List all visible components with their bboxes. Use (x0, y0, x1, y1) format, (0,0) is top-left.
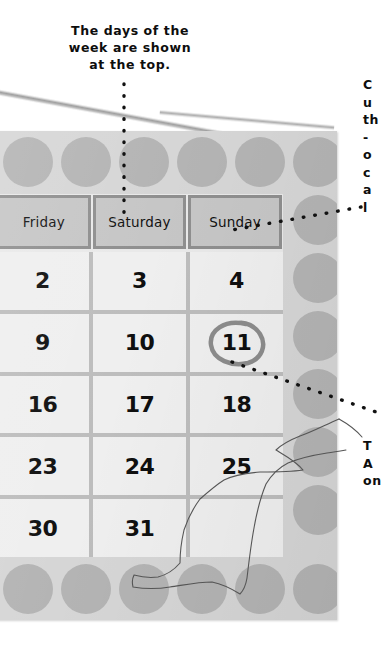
date-cell[interactable]: 30 (0, 499, 89, 557)
date-cell[interactable]: 3 (93, 252, 186, 310)
calendar-grid-area: Friday Saturday Sunday 2 3 4 9 10 11 16 … (0, 194, 283, 557)
day-header-friday[interactable]: Friday (0, 195, 91, 249)
date-cell[interactable]: 2 (0, 252, 89, 310)
date-cell[interactable]: 23 (0, 437, 89, 495)
date-cell[interactable]: 18 (190, 376, 283, 434)
date-cell[interactable]: 25 (190, 437, 283, 495)
date-cell-empty (190, 499, 283, 557)
date-cell[interactable]: 24 (93, 437, 186, 495)
date-cell-circled[interactable]: 11 (190, 314, 283, 372)
date-cell[interactable]: 31 (93, 499, 186, 557)
calendar-date-grid: 2 3 4 9 10 11 16 17 18 23 24 25 30 31 (0, 252, 283, 557)
annotation-right-text: C u th - o c a l (363, 76, 385, 216)
date-cell[interactable]: 4 (190, 252, 283, 310)
calendar-header-row: Friday Saturday Sunday (0, 194, 283, 250)
date-cell[interactable]: 9 (0, 314, 89, 372)
day-header-sunday[interactable]: Sunday (188, 195, 282, 249)
annotation-top-text: The days of the week are shown at the to… (60, 22, 200, 73)
day-header-saturday[interactable]: Saturday (93, 195, 187, 249)
date-cell[interactable]: 17 (93, 376, 186, 434)
annotation-right-lower-text: T A on (363, 437, 385, 490)
date-cell-label: 11 (222, 330, 252, 355)
date-cell[interactable]: 10 (93, 314, 186, 372)
date-cell[interactable]: 16 (0, 376, 89, 434)
calendar-photo: Friday Saturday Sunday 2 3 4 9 10 11 16 … (0, 131, 337, 620)
